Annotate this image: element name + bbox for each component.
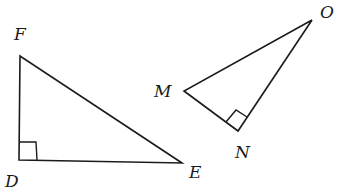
vertex-label-m: M bbox=[153, 81, 172, 101]
vertex-label-n: N bbox=[234, 142, 251, 162]
triangle-def: F D E bbox=[4, 24, 202, 191]
vertex-label-o: O bbox=[320, 2, 334, 22]
right-angle-marker-n bbox=[226, 110, 247, 122]
geometry-diagram: F D E M O N bbox=[0, 0, 337, 192]
triangle-mno-outline bbox=[184, 20, 312, 131]
triangle-def-outline bbox=[19, 56, 182, 163]
vertex-label-f: F bbox=[13, 24, 27, 44]
vertex-label-d: D bbox=[4, 171, 19, 191]
vertex-label-e: E bbox=[188, 162, 202, 182]
right-angle-marker-d bbox=[19, 142, 37, 160]
triangle-mno: M O N bbox=[153, 2, 334, 162]
